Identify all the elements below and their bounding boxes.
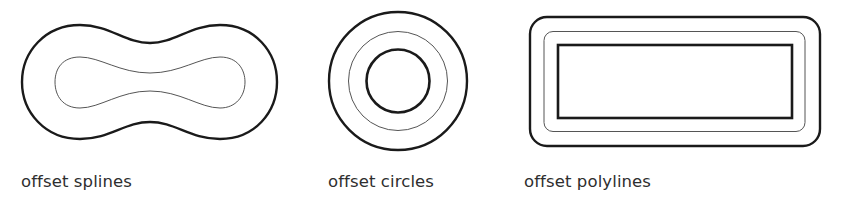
polyline-inner-original bbox=[558, 45, 792, 118]
circle-middle-offset bbox=[349, 32, 448, 131]
polyline-outer-offset bbox=[530, 17, 820, 146]
label-offset-circles: offset circles bbox=[328, 172, 434, 191]
polyline-middle-offset bbox=[544, 32, 805, 132]
offset-polylines-group bbox=[530, 17, 820, 146]
label-offset-polylines: offset polylines bbox=[524, 172, 651, 191]
offset-splines-group bbox=[22, 25, 277, 139]
circle-outer-offset bbox=[329, 12, 467, 150]
spline-outer-offset bbox=[22, 25, 277, 139]
spline-inner-offset bbox=[55, 57, 245, 108]
label-offset-splines: offset splines bbox=[21, 172, 132, 191]
circle-inner-original bbox=[367, 50, 430, 113]
offset-circles-group bbox=[329, 12, 467, 150]
